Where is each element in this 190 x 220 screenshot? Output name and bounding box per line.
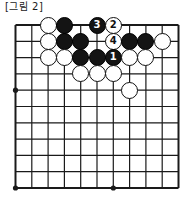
stone-white-18[interactable] <box>72 65 89 82</box>
stone-white-19[interactable] <box>89 65 106 82</box>
stone-move-number: 4 <box>110 36 117 46</box>
stone-white-4[interactable] <box>40 33 57 50</box>
stone-white-11[interactable] <box>40 49 57 66</box>
stone-white-20[interactable] <box>105 65 122 82</box>
stone-black-move-1-15[interactable]: 1 <box>105 49 122 66</box>
stone-move-number: 3 <box>94 20 101 30</box>
stone-move-number: 2 <box>110 20 117 30</box>
stone-white-0[interactable] <box>40 17 57 34</box>
stone-white-12[interactable] <box>56 49 73 66</box>
stone-black-13[interactable] <box>72 49 89 66</box>
stone-black-8[interactable] <box>121 33 138 50</box>
stone-black-9[interactable] <box>137 33 154 50</box>
go-board[interactable]: 3241 <box>0 16 190 206</box>
figure-caption: [그림 2] <box>5 1 43 13</box>
stone-black-move-3-2[interactable]: 3 <box>89 17 106 34</box>
stone-black-5[interactable] <box>56 33 73 50</box>
stone-white-move-4-7[interactable]: 4 <box>105 33 122 50</box>
stone-black-1[interactable] <box>56 17 73 34</box>
stone-white-10[interactable] <box>154 33 171 50</box>
stone-white-move-2-3[interactable]: 2 <box>105 17 122 34</box>
stones-layer: 3241 <box>0 16 190 206</box>
stone-white-21[interactable] <box>121 82 138 99</box>
stone-black-14[interactable] <box>89 49 106 66</box>
stone-white-16[interactable] <box>121 49 138 66</box>
go-diagram-figure: [그림 2] 3241 <box>0 0 190 220</box>
stone-black-6[interactable] <box>72 33 89 50</box>
stone-white-17[interactable] <box>137 49 154 66</box>
stone-move-number: 1 <box>110 52 117 62</box>
